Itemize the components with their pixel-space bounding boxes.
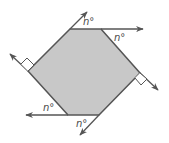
angle-label-bottom-right: n° — [76, 118, 87, 129]
angle-label-top-left: n° — [83, 16, 94, 27]
angle-label-top-right: n° — [114, 32, 125, 43]
hexagon-exterior-angle-diagram: n° n° n° n° — [0, 0, 169, 143]
angle-label-bottom-left: n° — [43, 102, 54, 113]
